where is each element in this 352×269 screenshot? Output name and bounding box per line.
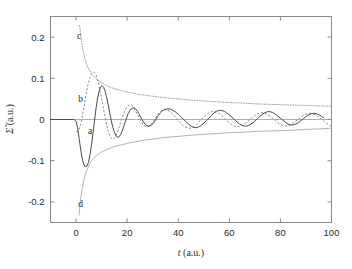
svg-text:Σ̃ (a.u.): Σ̃ (a.u.) xyxy=(4,104,16,135)
curve-c-upper-envelope xyxy=(80,26,332,107)
curve-d-lower-envelope xyxy=(79,128,331,215)
x-tick-label-2: 40 xyxy=(173,227,184,238)
curve-b-dashed xyxy=(76,72,331,139)
x-tick-label-1: 20 xyxy=(122,227,133,238)
data-curves xyxy=(51,26,332,216)
y-tick-label-3: -0.1 xyxy=(28,155,44,166)
curve-label-a: a xyxy=(88,126,93,136)
x-tick-label-0: 0 xyxy=(73,227,78,238)
curve-label-d: d xyxy=(78,199,83,209)
curve-annotations: abcd xyxy=(77,31,93,209)
curve-label-b: b xyxy=(78,94,83,104)
y-title-units: (a.u.) xyxy=(4,104,16,128)
x-tick-label-5: 100 xyxy=(324,227,340,238)
y-axis-tick-labels: 0.20.10-0.1-0.2 xyxy=(28,32,44,208)
svg-text:t (a.u.): t (a.u.) xyxy=(178,247,204,259)
x-tick-label-3: 60 xyxy=(224,227,235,238)
y-axis-title: Σ̃ (a.u.) xyxy=(4,104,16,135)
x-axis-tick-labels: 020406080100 xyxy=(73,227,339,238)
x-axis-title: t (a.u.) xyxy=(178,247,204,259)
y-tick-label-4: -0.2 xyxy=(28,196,44,207)
chart-canvas: 020406080100 0.20.10-0.1-0.2 abcd t (a.u… xyxy=(0,0,352,269)
x-tick-label-4: 80 xyxy=(275,227,286,238)
figure-container: 020406080100 0.20.10-0.1-0.2 abcd t (a.u… xyxy=(0,0,352,269)
y-tick-label-2: 0 xyxy=(39,114,44,125)
y-tick-label-1: 0.1 xyxy=(31,73,44,84)
y-tick-label-0: 0.2 xyxy=(31,32,44,43)
x-title-units: (a.u.) xyxy=(181,247,205,259)
curve-label-c: c xyxy=(77,31,81,41)
